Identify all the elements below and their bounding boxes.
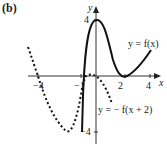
y-axis-arrow-icon — [93, 6, 99, 13]
x-tick-2: 2 — [118, 80, 123, 91]
label-f: y = f(x) — [128, 38, 159, 50]
y-tick-4: 4 — [84, 14, 89, 25]
graph: (b) x y −4 −1 2 4 4 −4 y = f(x) y = − f(… — [0, 0, 167, 150]
label-transformed: y = − f(x + 2) — [98, 104, 152, 116]
x-axis-label: x — [158, 77, 164, 88]
x-tick-4: 4 — [146, 80, 151, 91]
y-axis-label: y — [87, 2, 93, 13]
panel-label: (b) — [2, 1, 17, 15]
